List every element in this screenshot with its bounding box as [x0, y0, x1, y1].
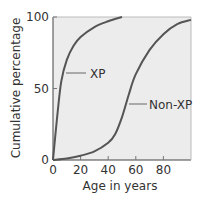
x-tick-label: 60: [128, 163, 143, 177]
x-tick-label: 80: [156, 163, 171, 177]
xp-label: XP: [90, 67, 105, 81]
y-tick-label: 50: [34, 82, 49, 96]
x-tick-label: 20: [73, 163, 88, 177]
non-xp-label: Non-XP: [149, 98, 192, 112]
y-tick-label: 0: [41, 153, 49, 167]
x-tick-label: 0: [49, 163, 57, 177]
plot-area: [53, 17, 191, 160]
y-axis-label: Cumulative percentage: [9, 18, 23, 159]
chart: 020406080 050100 XP Non-XP Age in years …: [0, 0, 204, 201]
x-tick-label: 40: [101, 163, 116, 177]
y-tick-label: 100: [26, 10, 49, 24]
x-axis-label: Age in years: [83, 179, 158, 193]
